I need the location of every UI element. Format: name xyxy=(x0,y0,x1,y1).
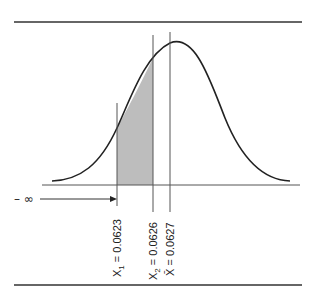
xbar-label: X̄ = 0.0627 xyxy=(164,222,176,276)
neg-infinity-label: – ∞ xyxy=(14,192,34,206)
normal-distribution-diagram: – ∞ X1 = 0.0623 X2 = 0.0626 X̄ = 0.0627 xyxy=(0,0,313,297)
bell-curve xyxy=(52,42,290,181)
arrow-head-icon xyxy=(110,196,117,202)
x1-label: X1 = 0.0623 xyxy=(111,219,126,277)
shaded-area xyxy=(117,58,153,185)
x2-label: X2 = 0.0626 xyxy=(147,222,162,280)
